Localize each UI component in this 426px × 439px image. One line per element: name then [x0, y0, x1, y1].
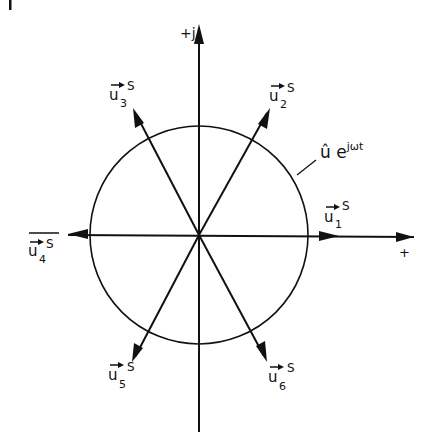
label-u1-name: u [324, 208, 334, 226]
label-u1-index: 1 [335, 218, 342, 231]
label-u4-name: u [28, 242, 38, 260]
circle-label-leader [297, 160, 316, 175]
label-u3-name: u [109, 86, 119, 104]
imaginary-axis-label: +j [180, 25, 196, 41]
circle-label-exponent: jωt [346, 140, 364, 153]
figure-marker [9, 0, 12, 10]
real-axis [68, 229, 414, 242]
label-u1-superscript: S [342, 199, 350, 213]
label-u1: u 1 S [324, 199, 350, 231]
label-u2-superscript: S [287, 81, 295, 95]
circle-label: û ejωt [320, 140, 364, 162]
label-u6-name: u [268, 368, 278, 386]
circle-label-base: û e [320, 142, 347, 162]
label-u2-name: u [269, 87, 279, 105]
label-u6-superscript: S [287, 361, 295, 375]
space-vector-diagram: +j + û ejωt u 1 S u 2 S u 3 S u 4 S u 5 … [0, 0, 426, 439]
label-u2: u 2 S [269, 81, 295, 111]
label-u3-index: 3 [120, 97, 127, 110]
real-axis-label: + [399, 245, 410, 260]
label-u6-index: 6 [279, 380, 286, 393]
label-u5: u 5 S [108, 360, 135, 391]
label-u5-superscript: S [127, 360, 135, 374]
label-u3: u 3 S [109, 79, 135, 110]
label-u3-superscript: S [127, 79, 135, 93]
label-u2-index: 2 [280, 98, 287, 111]
label-u5-index: 5 [119, 378, 126, 391]
label-u6: u 6 S [268, 361, 295, 393]
label-u5-name: u [108, 366, 118, 384]
label-u4-index: 4 [39, 253, 46, 266]
label-u4-superscript: S [46, 237, 54, 251]
label-u4: u 4 S [28, 233, 59, 266]
